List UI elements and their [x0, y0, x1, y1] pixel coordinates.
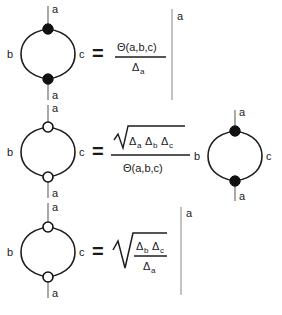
- right-arc: [48, 227, 75, 277]
- top-leg-label: a: [52, 102, 59, 114]
- left-arc-label: b: [7, 48, 13, 60]
- numerator-term-2-subscript: b: [153, 141, 158, 150]
- bottom-vertex-node: [43, 74, 53, 84]
- identity-3-group: a a b c = Δ b Δ c Δ a: [7, 201, 193, 299]
- bottom-vertex-node: [43, 272, 53, 282]
- bottom-leg-label: a: [239, 190, 246, 202]
- right-arc: [48, 29, 75, 79]
- identity-1-rhs-fraction: Θ(a,b,c) Δ a: [115, 41, 166, 76]
- left-arc: [21, 29, 48, 79]
- identity-1-rhs-vertical-line[interactable]: a: [172, 9, 184, 100]
- denominator-delta: Δ: [132, 61, 140, 73]
- left-arc-label: b: [7, 146, 13, 158]
- identity-3-rhs-radical-fraction: Δ b Δ c Δ a: [113, 233, 167, 275]
- numerator-theta: Θ(a,b,c): [117, 41, 157, 53]
- top-vertex-node: [43, 24, 53, 34]
- equations-canvas: a a b c = Θ(a,b,c) Δ a a: [0, 0, 282, 315]
- identity-2-rhs-bubble-diagram[interactable]: a a b c: [194, 106, 272, 202]
- numerator-term-1-symbol: Δ: [136, 240, 144, 252]
- identity-1-group: a a b c = Θ(a,b,c) Δ a a: [7, 3, 184, 101]
- top-vertex-node: [43, 122, 53, 132]
- left-arc-label: b: [194, 150, 200, 162]
- left-arc-label: b: [7, 246, 13, 258]
- vertical-line-label: a: [177, 10, 184, 22]
- right-arc-label: c: [79, 146, 85, 158]
- numerator-term-1-subscript: b: [144, 246, 149, 255]
- diagram-page: a a b c = Θ(a,b,c) Δ a a: [0, 0, 282, 315]
- numerator-term-2-subscript: c: [160, 246, 164, 255]
- top-vertex-node: [43, 222, 53, 232]
- right-arc: [48, 127, 75, 177]
- denominator-subscript: a: [140, 67, 145, 76]
- right-arc: [235, 131, 262, 181]
- numerator-term-3-subscript: c: [169, 141, 173, 150]
- denominator-theta: Θ(a,b,c): [123, 162, 163, 174]
- identity-3-equals-sign: =: [92, 240, 104, 262]
- identity-2-lhs-bubble-diagram[interactable]: a a b c: [7, 102, 85, 199]
- vertical-line-label: a: [186, 207, 193, 219]
- right-arc-label: c: [266, 150, 272, 162]
- numerator-term-1-symbol: Δ: [129, 135, 137, 147]
- left-arc: [21, 127, 48, 177]
- denominator-subscript: a: [151, 266, 156, 275]
- right-arc-label: c: [79, 48, 85, 60]
- left-arc: [208, 131, 235, 181]
- numerator-term-1-subscript: a: [137, 141, 142, 150]
- numerator-term-2-symbol: Δ: [152, 240, 160, 252]
- bottom-vertex-node: [43, 172, 53, 182]
- identity-3-lhs-bubble-diagram[interactable]: a a b c: [7, 201, 85, 299]
- identity-2-rhs-fraction: Δ a Δ b Δ c Θ(a,b,c): [111, 126, 190, 174]
- numerator-term-2-symbol: Δ: [145, 135, 153, 147]
- top-leg-label: a: [239, 106, 246, 118]
- bottom-leg-label: a: [52, 287, 59, 299]
- denominator-delta: Δ: [143, 260, 151, 272]
- right-arc-label: c: [79, 246, 85, 258]
- numerator-term-3-symbol: Δ: [161, 135, 169, 147]
- identity-2-group: a a b c = Δ a Δ b Δ c Θ(a,b,c): [7, 102, 272, 202]
- top-leg-label: a: [52, 201, 59, 213]
- top-vertex-node: [230, 126, 240, 136]
- left-arc: [21, 227, 48, 277]
- bottom-leg-label: a: [52, 187, 59, 199]
- identity-2-equals-sign: =: [92, 140, 104, 162]
- top-leg-label: a: [52, 3, 59, 15]
- identity-3-rhs-vertical-line[interactable]: a: [181, 207, 193, 295]
- bottom-vertex-node: [230, 176, 240, 186]
- identity-1-lhs-bubble-diagram[interactable]: a a b c: [7, 3, 85, 101]
- bottom-leg-label: a: [52, 89, 59, 101]
- identity-1-equals-sign: =: [92, 42, 104, 64]
